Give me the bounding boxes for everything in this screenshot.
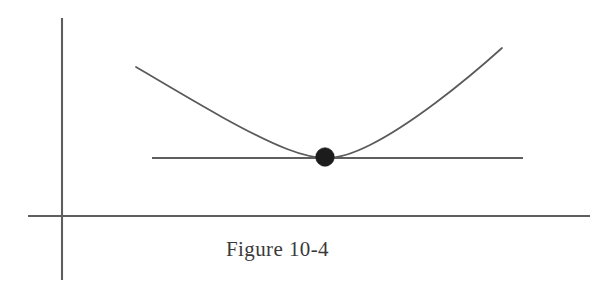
- parabola-curve: [136, 48, 502, 158]
- minimum-point-marker: [316, 148, 335, 167]
- figure-container: Figure 10-4: [0, 0, 611, 289]
- figure-caption: Figure 10-4: [0, 236, 611, 262]
